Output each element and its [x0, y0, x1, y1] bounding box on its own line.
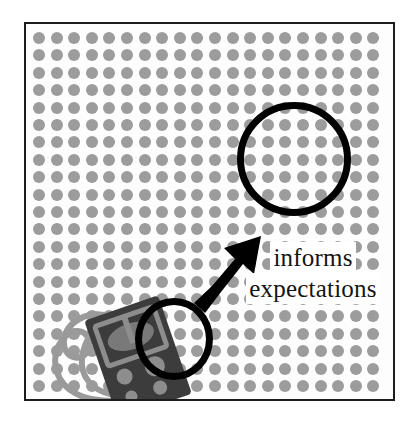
caption: informs expectations: [238, 242, 388, 304]
diagram-frame: informs expectations: [24, 22, 395, 401]
caption-line-informs: informs: [270, 242, 355, 273]
sample-region-circle: [135, 298, 213, 380]
figure-canvas: informs expectations: [0, 0, 416, 425]
caption-line-expectations: expectations: [246, 273, 379, 304]
inference-region-circle: [237, 102, 351, 216]
